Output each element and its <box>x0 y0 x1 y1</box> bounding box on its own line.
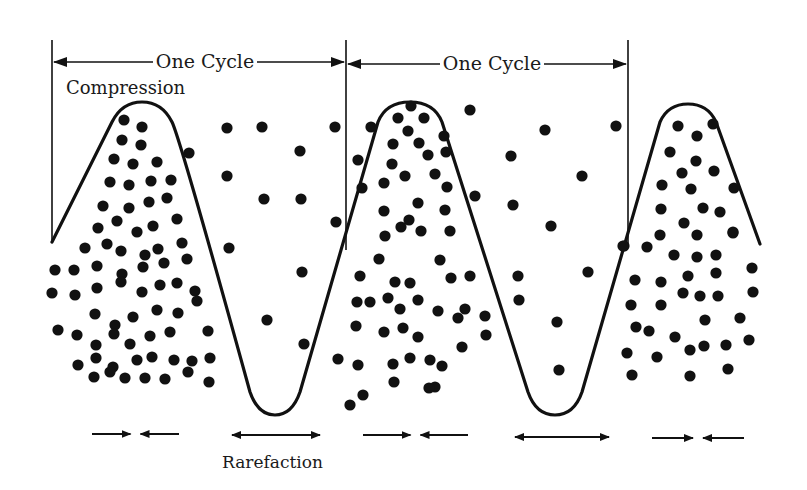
particle-dot <box>464 104 475 115</box>
particle-dot <box>90 339 101 350</box>
particle-dot <box>144 330 155 341</box>
particle-dot <box>480 329 491 340</box>
particle-dot <box>710 267 721 278</box>
particle-dot <box>97 200 108 211</box>
compression-label: Compression <box>66 77 186 98</box>
particle-dot <box>734 312 745 323</box>
particle-dot <box>104 176 115 187</box>
particle-dot <box>354 270 365 281</box>
particle-dot <box>682 270 693 281</box>
particle-dot <box>136 286 147 297</box>
particle-dot <box>171 277 182 288</box>
wave-diagram: One Cycle One Cycle Compression Rarefact… <box>0 0 807 490</box>
particle-dot <box>124 338 135 349</box>
particle-dot <box>669 331 680 342</box>
particle-dot <box>46 287 57 298</box>
particle-dot <box>72 359 83 370</box>
particle-dot <box>722 363 733 374</box>
particle-dot <box>295 193 306 204</box>
particle-dot <box>746 262 757 273</box>
particle-dot <box>429 168 440 179</box>
particle-dot <box>388 376 399 387</box>
particle-dot <box>507 199 518 210</box>
particle-dot <box>191 295 202 306</box>
particle-dot <box>171 213 182 224</box>
particle-dot <box>545 220 556 231</box>
particle-dot <box>440 146 451 157</box>
particle-dot <box>655 203 666 214</box>
particle-dot <box>412 294 423 305</box>
particle-dot <box>79 242 90 253</box>
particle-dot <box>111 215 122 226</box>
particle-dot <box>459 303 470 314</box>
particle-dot <box>582 266 593 277</box>
one-cycle-label-2: One Cycle <box>443 52 541 74</box>
particle-dot <box>330 216 341 227</box>
particle-dot <box>146 351 157 362</box>
particle-dot <box>643 325 654 336</box>
diagram-canvas: One Cycle One Cycle Compression Rarefact… <box>0 0 807 490</box>
particle-dot <box>161 192 172 203</box>
particle-dot <box>258 193 269 204</box>
particle-dot <box>332 353 343 364</box>
particle-dot <box>364 296 375 307</box>
particle-dot <box>415 225 426 236</box>
particle-dot <box>412 331 423 342</box>
particle-dot <box>387 138 398 149</box>
particle-dot <box>551 316 562 327</box>
particle-dot <box>413 137 424 148</box>
particle-dot <box>151 304 162 315</box>
particle-dot <box>676 167 687 178</box>
particle-dot <box>452 312 463 323</box>
particle-dot <box>356 182 367 193</box>
particle-dot <box>404 352 415 363</box>
particle-dot <box>329 121 340 132</box>
particle-dot <box>691 229 702 240</box>
particle-dot <box>456 341 467 352</box>
particle-dot <box>294 145 305 156</box>
particle-dot <box>630 321 641 332</box>
particle-dot <box>151 156 162 167</box>
particle-dot <box>115 276 126 287</box>
particle-dot <box>386 158 397 169</box>
particle-dot <box>108 328 119 339</box>
particle-dot <box>91 260 102 271</box>
particle-dot <box>404 277 415 288</box>
particle-dot <box>707 118 718 129</box>
particle-dot <box>49 264 60 275</box>
particle-dot <box>89 308 100 319</box>
particle-dot <box>183 147 194 158</box>
particle-dot <box>203 376 214 387</box>
particle-dot <box>123 202 134 213</box>
particle-dot <box>697 202 708 213</box>
particle-dot <box>553 364 564 375</box>
particle-dot <box>699 314 710 325</box>
particle-dot <box>352 359 363 370</box>
particle-dot <box>221 170 232 181</box>
particle-dot <box>123 179 134 190</box>
particle-dot <box>139 249 150 260</box>
particle-dot <box>88 371 99 382</box>
particle-dot <box>672 120 683 131</box>
particle-dot <box>685 183 696 194</box>
particle-dot <box>387 358 398 369</box>
particle-dot <box>181 253 192 264</box>
particle-dot <box>172 307 183 318</box>
particle-dot <box>444 225 455 236</box>
particle-dot <box>629 274 640 285</box>
particle-dot <box>617 240 628 251</box>
particle-dot <box>464 270 475 281</box>
particle-dot <box>655 276 666 287</box>
particle-dot <box>727 227 738 238</box>
particle-dot <box>373 253 384 264</box>
particle-dot <box>445 272 456 283</box>
particle-dot <box>710 249 721 260</box>
particle-dot <box>505 150 516 161</box>
particle-dot <box>690 155 701 166</box>
particle-dot <box>698 340 709 351</box>
particle-dot <box>298 338 309 349</box>
particle-dot <box>344 399 355 410</box>
particle-dot <box>677 287 688 298</box>
particle-dot <box>512 270 523 281</box>
particle-dot <box>684 344 695 355</box>
